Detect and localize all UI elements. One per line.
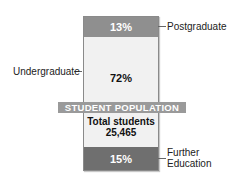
undergraduate-label: Undergraduate xyxy=(13,66,80,77)
postgraduate-value: 13% xyxy=(110,21,132,33)
total-value: 25,465 xyxy=(84,127,158,138)
stacked-bar: 13% 72% STUDENT POPULATION Total student… xyxy=(83,16,159,171)
further-education-label: Further Education xyxy=(167,147,211,169)
further-education-segment: 15% xyxy=(84,147,158,170)
further-education-label-line1: Further xyxy=(167,147,211,158)
further-education-label-line2: Education xyxy=(167,158,211,169)
title-banner: STUDENT POPULATION xyxy=(58,102,186,113)
postgraduate-leader xyxy=(158,26,166,27)
total-label: Total students xyxy=(84,116,158,127)
postgraduate-segment: 13% xyxy=(84,17,158,37)
further-education-value: 15% xyxy=(110,153,132,165)
further-education-leader xyxy=(158,158,166,159)
postgraduate-label: Postgraduate xyxy=(167,21,227,32)
total-students: Total students 25,465 xyxy=(84,116,158,138)
undergraduate-value: 72% xyxy=(84,72,158,84)
